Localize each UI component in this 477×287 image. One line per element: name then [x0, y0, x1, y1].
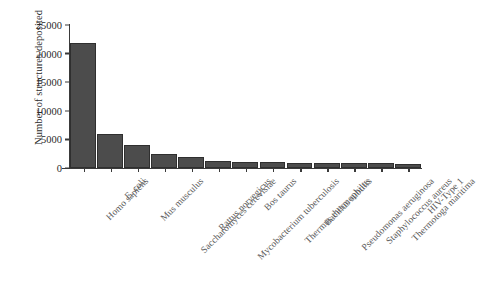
y-axis-tick-label: 5000: [41, 134, 65, 145]
x-axis-tick-mark: [246, 168, 247, 172]
bar: [205, 161, 231, 168]
y-axis-tick-label: 0: [57, 163, 65, 174]
x-axis-tick-label: Pseudomonas aeruginosa: [360, 176, 436, 252]
y-axis-tick-mark: [65, 24, 70, 25]
x-axis-line: [62, 168, 422, 169]
x-axis-tick-label: Mus musculus: [158, 176, 205, 223]
bar: [70, 43, 96, 168]
x-axis-tick-mark: [84, 168, 85, 172]
x-axis-tick-mark: [408, 168, 409, 172]
y-axis-tick: 15000: [36, 77, 70, 88]
y-axis-tick: 10000: [36, 105, 70, 116]
x-axis-tick-mark: [354, 168, 355, 172]
y-axis-tick: 25000: [36, 20, 70, 31]
bar: [97, 134, 123, 168]
x-axis-tick-mark: [111, 168, 112, 172]
y-axis-tick-label: 25000: [36, 20, 65, 31]
y-axis-tick-label: 20000: [36, 48, 65, 59]
plot-area: 0500010000150002000025000: [70, 25, 422, 168]
x-axis-tick-mark: [219, 168, 220, 172]
y-axis-tick: 20000: [36, 48, 70, 59]
x-axis-tick-mark: [327, 168, 328, 172]
x-axis-tick-mark: [138, 168, 139, 172]
y-axis-tick-label: 10000: [36, 105, 65, 116]
bar: [124, 145, 150, 168]
y-axis-tick-label: 15000: [36, 77, 65, 88]
y-axis-tick: 5000: [41, 134, 70, 145]
bar: [178, 157, 204, 168]
x-axis-tick-mark: [300, 168, 301, 172]
y-axis-tick: 0: [57, 163, 70, 174]
x-axis-tick-mark: [381, 168, 382, 172]
x-axis-tick-mark: [273, 168, 274, 172]
x-axis-tick-mark: [192, 168, 193, 172]
bar: [151, 154, 177, 168]
x-axis-tick-mark: [165, 168, 166, 172]
